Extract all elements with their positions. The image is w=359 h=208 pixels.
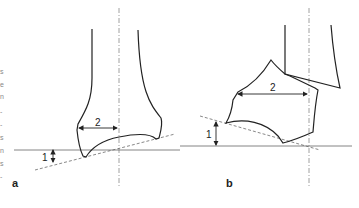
bone-angle-diagram: 2 1 2 1 [0,0,359,208]
panel-label-a: a [12,177,18,189]
fragment-outline-b [226,60,318,143]
panel-b: 2 1 [180,8,352,188]
width-label-b: 2 [270,82,276,93]
width-label-a: 2 [95,117,101,128]
shaft-outline-b [285,25,340,88]
tangent-line-b [200,116,320,150]
tangent-line-a [35,134,175,170]
bone-outline-a [77,29,162,157]
angle-label-b: 1 [206,129,212,140]
panel-a: 2 1 [14,8,180,188]
angle-label-a: 1 [42,152,48,163]
panel-label-b: b [226,177,233,189]
